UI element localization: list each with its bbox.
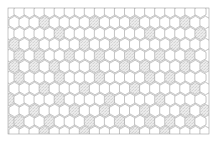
hex-cell	[99, 126, 110, 139]
hex-cell	[19, 16, 30, 29]
hex-cell	[175, 5, 186, 18]
hex-cell	[200, 38, 211, 51]
hex-cell	[24, 27, 35, 40]
hex-cell	[155, 115, 166, 128]
hex-cell	[89, 104, 100, 117]
hex-cell	[130, 38, 141, 51]
hex-cell-shaded	[145, 115, 156, 128]
hex-cell	[140, 16, 151, 29]
hex-cell	[175, 71, 186, 84]
hex-cell	[119, 38, 130, 51]
hex-cell-shaded	[130, 16, 141, 29]
hex-cell-shaded	[145, 27, 156, 40]
hex-cell	[34, 71, 45, 84]
hex-cell	[125, 93, 136, 106]
hex-cell-shaded	[14, 115, 25, 128]
hex-cell	[200, 126, 211, 139]
hex-cell	[99, 38, 110, 51]
hex-cell	[59, 82, 70, 95]
hex-cell	[180, 126, 191, 139]
hex-cell	[125, 115, 136, 128]
hex-cell	[109, 60, 120, 73]
hex-cell-shaded	[14, 49, 25, 62]
hex-cell	[165, 93, 176, 106]
hex-cell	[79, 104, 90, 117]
hex-cell	[150, 60, 161, 73]
hex-cell	[24, 115, 35, 128]
hex-cell	[24, 5, 35, 18]
hex-cell-layer	[4, 5, 211, 139]
hex-cell-shaded	[4, 115, 15, 128]
hex-cell	[34, 27, 45, 40]
hex-cell	[94, 5, 105, 18]
hex-cell	[104, 27, 115, 40]
hex-cell-shaded	[34, 49, 45, 62]
hex-cell	[195, 93, 206, 106]
hex-cell	[135, 115, 146, 128]
hex-cell-shaded	[200, 104, 211, 117]
hex-cell	[69, 82, 80, 95]
hex-cell-shaded	[39, 82, 50, 95]
hex-cell	[74, 93, 85, 106]
hex-cell-shaded	[54, 27, 65, 40]
hex-cell	[99, 82, 110, 95]
hex-cell	[34, 115, 45, 128]
hex-cell	[34, 5, 45, 18]
hex-cell	[19, 126, 30, 139]
hex-cell	[125, 71, 136, 84]
hex-cell-shaded	[119, 60, 130, 73]
hex-cell	[160, 16, 171, 29]
hex-cell	[64, 115, 75, 128]
hex-cell	[44, 27, 55, 40]
hex-cell	[135, 27, 146, 40]
hex-cell	[165, 5, 176, 18]
hex-cell	[44, 71, 55, 84]
hex-cell	[4, 5, 15, 18]
hex-cell	[14, 27, 25, 40]
hex-cell	[170, 82, 181, 95]
hex-cell	[165, 49, 176, 62]
hex-cell	[39, 38, 50, 51]
hex-cell	[195, 115, 206, 128]
hex-cell	[59, 104, 70, 117]
hex-cell	[49, 82, 60, 95]
hex-cell	[114, 5, 125, 18]
hex-cell	[175, 115, 186, 128]
hex-cell	[155, 27, 166, 40]
hex-cell	[160, 104, 171, 117]
hex-cell-shaded	[89, 16, 100, 29]
hex-cell	[190, 126, 201, 139]
hex-cell	[4, 27, 15, 40]
hex-cell	[19, 82, 30, 95]
hex-cell	[190, 16, 201, 29]
hex-cell-shaded	[64, 49, 75, 62]
hex-cell-shaded	[180, 16, 191, 29]
hex-cell	[84, 27, 95, 40]
hex-cell-shaded	[180, 60, 191, 73]
hex-cell	[89, 38, 100, 51]
hex-cell	[74, 71, 85, 84]
hex-cell	[69, 16, 80, 29]
hex-cell-shaded	[99, 104, 110, 117]
hex-cell	[69, 60, 80, 73]
hex-cell-shaded	[54, 93, 65, 106]
hex-cell	[145, 49, 156, 62]
hex-cell	[29, 16, 40, 29]
hex-cell	[49, 104, 60, 117]
hex-cell	[49, 38, 60, 51]
hex-cell	[109, 82, 120, 95]
hex-cell	[59, 38, 70, 51]
hex-cell-shaded	[9, 60, 20, 73]
hex-cell	[4, 49, 15, 62]
hex-cell	[125, 5, 136, 18]
hex-cell	[104, 49, 115, 62]
hex-cell	[64, 5, 75, 18]
hex-cell-shaded	[190, 82, 201, 95]
hex-cell	[195, 49, 206, 62]
hex-cell	[99, 60, 110, 73]
hex-cell	[165, 27, 176, 40]
hex-cell	[150, 38, 161, 51]
hex-cell	[185, 71, 196, 84]
hex-cell	[19, 38, 30, 51]
hex-cell-shaded	[200, 60, 211, 73]
